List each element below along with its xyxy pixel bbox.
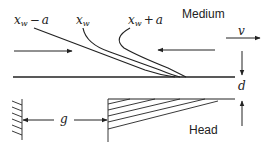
medium-label: Medium — [182, 8, 225, 20]
gap-label: g — [60, 113, 68, 125]
label-xw-plus-a: xw+a — [128, 14, 163, 28]
velocity-label: v — [238, 25, 245, 37]
transition-curve-xw-minus-a — [34, 28, 175, 77]
spacing-label: d — [238, 80, 246, 92]
left-pole-piece — [12, 99, 22, 140]
label-xw: xw — [76, 14, 90, 28]
transition-curve-xw-plus-a — [119, 28, 186, 77]
label-xw-minus-a: xw−a — [14, 14, 49, 28]
head-label: Head — [189, 124, 218, 136]
